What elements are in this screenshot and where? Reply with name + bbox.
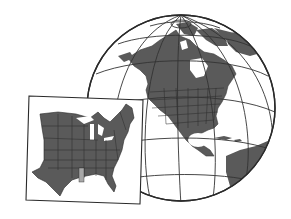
globe-map-illustration — [0, 0, 291, 219]
inset-map-eastern-us — [26, 96, 143, 204]
highlighted-state-mississippi — [79, 168, 84, 182]
